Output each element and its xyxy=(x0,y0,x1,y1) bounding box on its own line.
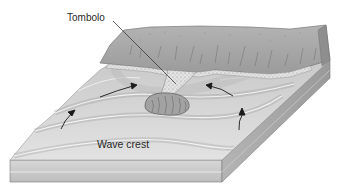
wave-crest-label: Wave crest xyxy=(97,139,149,150)
tombolo-label: Tombolo xyxy=(67,13,105,23)
offshore-island xyxy=(145,93,189,115)
tombolo-diagram: Tombolo Wave crest xyxy=(0,0,344,190)
diagram-canvas xyxy=(0,0,344,190)
